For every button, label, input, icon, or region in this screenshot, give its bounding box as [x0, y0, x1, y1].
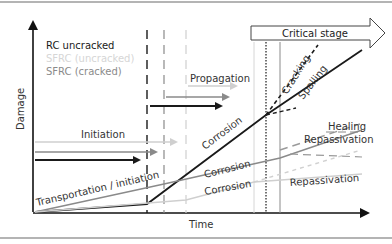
- repassivation-uncracked-label: Repassivation: [289, 172, 359, 188]
- corrosion-sfrc-cracked-label: Corrosion: [203, 158, 252, 180]
- initiation-label: Initiation: [81, 129, 125, 140]
- critical-stage-label: Critical stage: [282, 28, 348, 39]
- sfrc-cracked-repassivation-dash: [290, 154, 362, 157]
- damage-time-diagram: Damage Time RC uncracked SFRC (uncracked…: [0, 0, 392, 244]
- x-axis-label: Time: [188, 219, 213, 230]
- healing-label: Healing: [328, 121, 366, 132]
- legend-rc-uncracked: RC uncracked: [46, 40, 114, 51]
- corrosion-sfrc-uncracked-label: Corrosion: [203, 178, 252, 197]
- legend-sfrc-cracked: SFRC (cracked): [46, 66, 122, 77]
- legend-sfrc-uncracked: SFRC (uncracked): [46, 53, 134, 64]
- repassivation-cracked-label: Repassivation: [304, 134, 374, 145]
- corrosion-rc-label: Corrosion: [200, 114, 245, 151]
- y-axis-label: Damage: [15, 88, 26, 130]
- propagation-label: Propagation: [190, 73, 250, 84]
